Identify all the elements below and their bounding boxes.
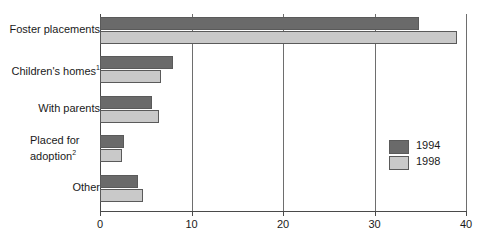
category-label-text: With parents [38, 102, 100, 114]
tick-10 [192, 211, 193, 216]
category-label: Children's homes1 [11, 62, 100, 77]
x-tick-label-30: 30 [368, 218, 380, 230]
category-row: Other [0, 172, 478, 211]
bar-1994 [100, 17, 419, 30]
category-label: With parents [38, 102, 100, 115]
bar-1998 [100, 149, 122, 162]
tick-40 [466, 211, 467, 216]
footnote-marker: 2 [72, 149, 76, 156]
category-label: Other [72, 181, 100, 194]
category-row: With parents [0, 93, 478, 132]
bar-1998 [100, 110, 159, 123]
category-label-text: Children's homes [11, 65, 96, 77]
category-label-text: Foster placements [10, 23, 100, 35]
category-label: Foster placements [10, 23, 100, 36]
bar-1994 [100, 96, 152, 109]
tick-20 [283, 211, 284, 216]
bar-1994 [100, 56, 173, 69]
bar-1998 [100, 70, 161, 83]
category-label: Placed foradoption2 [30, 134, 100, 162]
bar-1998 [100, 189, 143, 202]
category-label-text: Other [72, 181, 100, 193]
tick-0 [100, 211, 101, 216]
bar-1994 [100, 175, 138, 188]
x-tick-label-10: 10 [185, 218, 197, 230]
category-row: Foster placements [0, 14, 478, 53]
category-row: Children's homes1 [0, 53, 478, 92]
legend-swatch-1998 [389, 156, 409, 170]
x-tick-label-0: 0 [97, 218, 103, 230]
legend-label-1994: 1994 [416, 139, 440, 151]
bar-1998 [100, 31, 457, 44]
legend-label-1998: 1998 [416, 155, 440, 167]
bar-1994 [100, 135, 124, 148]
x-tick-label-40: 40 [460, 218, 472, 230]
x-tick-label-20: 20 [277, 218, 289, 230]
bar-chart: 010203040 Foster placementsChildren's ho… [0, 0, 478, 241]
tick-30 [375, 211, 376, 216]
legend-swatch-1994 [389, 140, 409, 154]
